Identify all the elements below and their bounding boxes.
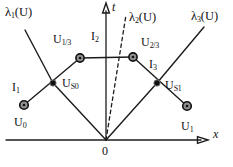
label-origin: 0 [102, 145, 108, 158]
label-lambda2: λ2(U) [129, 11, 156, 24]
left-wave-to-origin-line [53, 83, 106, 140]
label-lambda1: λ1(U) [5, 6, 32, 19]
state-node-U1 [183, 102, 192, 111]
state-node-U1-center [186, 105, 189, 108]
label-U1: U1 [181, 120, 193, 133]
label-lambda3: λ3(U) [191, 10, 218, 23]
state-node-I1-center [23, 104, 26, 107]
lambda3-line [157, 27, 204, 83]
interaction-dot-right [154, 80, 160, 86]
state-node-U13-center [79, 57, 82, 60]
interaction-dot-left [50, 80, 56, 86]
label-US1: US1 [165, 79, 182, 92]
state-node-U23-center [132, 56, 135, 59]
label-t-axis: t [112, 1, 115, 14]
label-US0: US0 [62, 77, 79, 90]
state-node-U13 [76, 54, 84, 62]
diagram-canvas: λ1(U) λ2(U) λ3(U) t x 0 U1/3 I2 U2/3 I3 … [0, 0, 233, 167]
state-node-I1 [20, 101, 29, 110]
label-I1: I1 [12, 81, 20, 94]
label-U0: U0 [14, 116, 26, 129]
label-x-axis: x [213, 128, 218, 141]
lambda1-line [25, 30, 53, 83]
diagram-geometry [0, 0, 233, 167]
label-I3: I3 [149, 58, 157, 71]
state-node-U23 [129, 53, 137, 61]
label-U23: U2/3 [141, 36, 159, 49]
label-U13: U1/3 [53, 33, 71, 46]
u13-u23-horizontal-line [80, 57, 133, 58]
label-I2: I2 [91, 30, 99, 43]
